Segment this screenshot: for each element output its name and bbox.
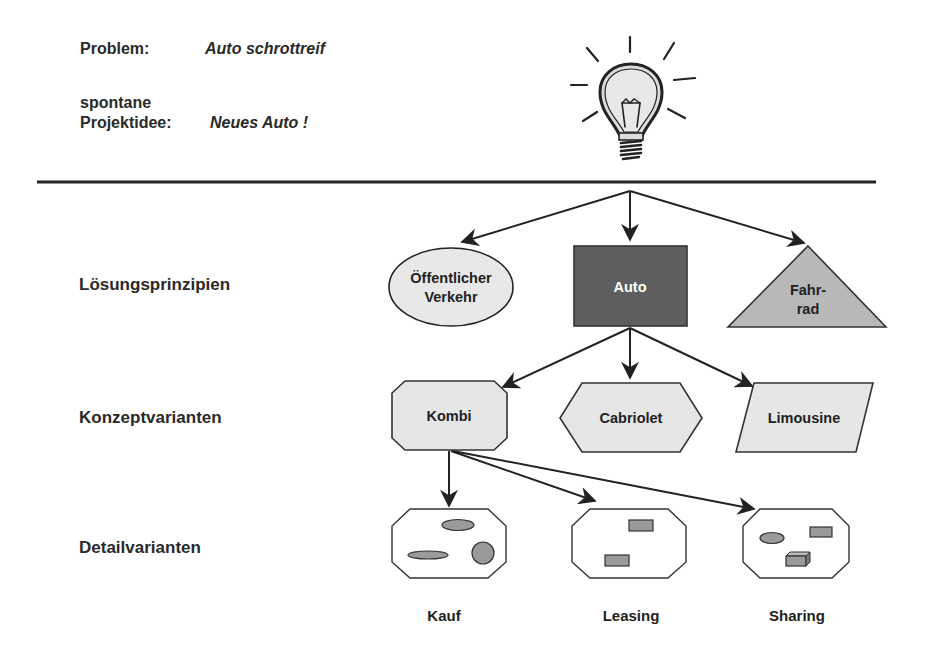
lightbulb-icon	[571, 37, 695, 159]
detail-label-sharing: Sharing	[769, 607, 825, 624]
detail-leasing[interactable]	[572, 509, 686, 578]
arrows-concepts	[503, 328, 752, 387]
concept-cabriolet[interactable]: Cabriolet	[560, 383, 702, 452]
principle-auto[interactable]: Auto	[574, 246, 687, 326]
concept-label: Cabriolet	[600, 410, 663, 426]
principle-label-line1: Fahr-	[790, 282, 826, 298]
concept-kombi[interactable]: Kombi	[392, 381, 507, 450]
concept-limousine[interactable]: Limousine	[736, 383, 873, 452]
diagram-canvas: Öffentlicher Verkehr Auto Fahr- rad Komb…	[0, 0, 926, 655]
principle-label-line2: rad	[797, 301, 820, 317]
principle-label-line1: Öffentlicher	[410, 270, 492, 286]
principle-label-line2: Verkehr	[424, 289, 478, 305]
arrows-principles	[462, 191, 804, 243]
concept-label: Kombi	[426, 408, 471, 424]
detail-kauf[interactable]	[392, 509, 506, 578]
arrows-details	[449, 451, 754, 509]
detail-sharing[interactable]	[743, 509, 849, 578]
principle-oeffentlicher-verkehr[interactable]: Öffentlicher Verkehr	[389, 248, 513, 326]
principle-label: Auto	[613, 279, 646, 295]
concept-label: Limousine	[768, 410, 841, 426]
principle-fahrrad[interactable]: Fahr- rad	[728, 246, 886, 327]
detail-label-leasing: Leasing	[603, 607, 660, 624]
detail-label-kauf: Kauf	[427, 607, 461, 624]
